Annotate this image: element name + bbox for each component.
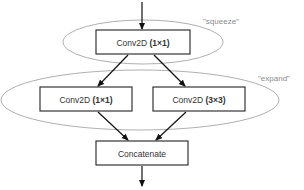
edge-expand3x3-to-concat bbox=[156, 112, 186, 140]
expand-conv-3x3-node: Conv2D (3×3) bbox=[153, 87, 245, 111]
expand-conv-3x3-label: Conv2D (3×3) bbox=[172, 95, 225, 105]
squeeze-label: "squeeze" bbox=[203, 17, 239, 26]
expand-conv-1x1-node: Conv2D (1×1) bbox=[40, 87, 132, 111]
expand-conv-1x1-label: Conv2D (1×1) bbox=[59, 95, 112, 105]
fire-module-diagram: "squeeze" "expand" Conv2D (1×1) Conv2D (… bbox=[0, 0, 304, 190]
edge-expand1x1-to-concat bbox=[98, 112, 128, 140]
squeeze-conv-label: Conv2D (1×1) bbox=[116, 38, 169, 48]
concatenate-label: Concatenate bbox=[118, 149, 166, 159]
squeeze-conv-node: Conv2D (1×1) bbox=[96, 30, 190, 54]
concatenate-node: Concatenate bbox=[96, 141, 188, 165]
expand-label: "expand" bbox=[258, 74, 290, 83]
